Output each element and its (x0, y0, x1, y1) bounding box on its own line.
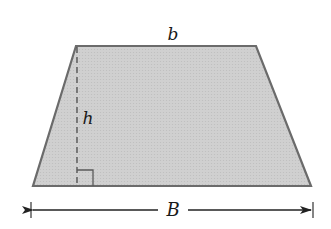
trapezoid-diagram (0, 0, 331, 229)
top-base-label: b (168, 26, 179, 43)
height-label: h (83, 110, 94, 127)
trapezoid-shape (33, 46, 311, 186)
bottom-base-label: B (161, 201, 184, 219)
